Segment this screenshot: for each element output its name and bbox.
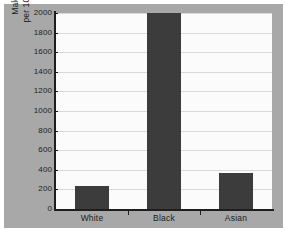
bar-black <box>147 13 182 209</box>
y-tick-mark <box>54 52 58 53</box>
x-tick-mark <box>128 211 129 215</box>
y-tick-mark <box>54 72 58 73</box>
y-tick-mark <box>54 209 58 210</box>
y-tick-label: 1200 <box>8 87 52 95</box>
y-tick-mark <box>54 91 58 92</box>
bar-chart-figure: 0200400600800100012001400160018002000 Wh… <box>0 0 290 239</box>
x-tick-label-white: White <box>56 213 128 223</box>
y-tick-label: 0 <box>8 205 52 213</box>
y-tick-mark <box>54 111 58 112</box>
y-tick-mark <box>54 170 58 171</box>
y-tick-mark <box>54 189 58 190</box>
bar-white <box>75 186 110 209</box>
y-tick-mark <box>54 131 58 132</box>
y-tick-label: 600 <box>8 146 52 154</box>
y-tick-mark <box>54 33 58 34</box>
x-tick-label-black: Black <box>128 213 200 223</box>
bar-asian <box>219 173 254 209</box>
y-tick-label: 1000 <box>8 107 52 115</box>
y-axis-title-line-2: per 100,000 population 2000 <box>21 0 32 42</box>
y-tick-label: 400 <box>8 166 52 174</box>
plot-area <box>56 13 272 209</box>
y-tick-mark <box>54 13 58 14</box>
y-tick-label: 1400 <box>8 68 52 76</box>
y-axis-title-line-1: Male prisoner population <box>10 0 21 42</box>
y-tick-label: 200 <box>8 185 52 193</box>
y-tick-label: 1600 <box>8 48 52 56</box>
x-axis-line <box>54 209 274 211</box>
x-tick-label-asian: Asian <box>200 213 272 223</box>
y-axis-title: Male prisoner population per 100,000 pop… <box>10 0 36 42</box>
y-tick-label: 800 <box>8 127 52 135</box>
y-tick-mark <box>54 150 58 151</box>
x-tick-mark <box>200 211 201 215</box>
